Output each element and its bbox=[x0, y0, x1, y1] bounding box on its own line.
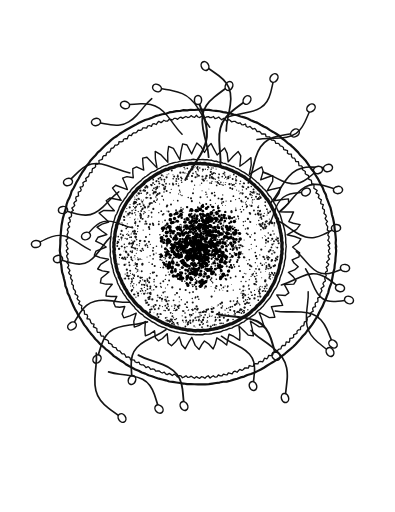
cytoplasm-dot bbox=[214, 195, 216, 197]
cytoplasm-dot bbox=[139, 276, 141, 278]
cytoplasm-dot bbox=[224, 313, 225, 314]
cytoplasm-dot bbox=[179, 301, 180, 302]
nucleus-dot bbox=[207, 206, 210, 209]
cytoplasm-dot bbox=[154, 285, 155, 286]
cytoplasm-dot bbox=[149, 311, 151, 313]
cytoplasm-dot bbox=[241, 211, 243, 213]
nucleus-dot bbox=[202, 220, 205, 223]
cytoplasm-dot bbox=[249, 298, 251, 300]
nucleus-dot bbox=[175, 211, 179, 215]
nucleus-dot bbox=[212, 256, 214, 258]
cytoplasm-dot bbox=[131, 226, 132, 227]
cytoplasm-dot bbox=[222, 205, 223, 206]
cytoplasm-dot bbox=[157, 316, 159, 318]
cytoplasm-dot bbox=[254, 252, 256, 254]
nucleus-dot bbox=[203, 272, 207, 276]
cytoplasm-dot bbox=[152, 182, 154, 184]
cytoplasm-dot bbox=[172, 174, 173, 175]
cytoplasm-dot bbox=[260, 271, 261, 272]
cytoplasm-dot bbox=[205, 175, 207, 177]
nucleus-dot bbox=[181, 255, 183, 257]
cytoplasm-dot bbox=[232, 184, 233, 185]
cytoplasm-dot bbox=[155, 286, 157, 288]
cytoplasm-dot bbox=[166, 176, 168, 178]
cytoplasm-dot bbox=[181, 226, 182, 227]
cytoplasm-dot bbox=[248, 297, 249, 298]
cytoplasm-dot bbox=[136, 199, 137, 200]
cytoplasm-dot bbox=[276, 256, 278, 258]
cytoplasm-dot bbox=[148, 228, 150, 230]
cytoplasm-dot bbox=[119, 254, 121, 256]
nucleus-dot bbox=[186, 206, 188, 208]
cytoplasm-dot bbox=[122, 224, 124, 226]
cytoplasm-dot bbox=[205, 311, 207, 313]
cytoplasm-dot bbox=[253, 189, 255, 191]
nucleus-dot bbox=[167, 266, 170, 269]
cytoplasm-dot bbox=[200, 185, 201, 186]
cytoplasm-dot bbox=[207, 169, 208, 170]
cytoplasm-dot bbox=[239, 304, 241, 306]
cytoplasm-dot bbox=[267, 258, 269, 260]
cytoplasm-dot bbox=[217, 239, 219, 241]
cytoplasm-dot bbox=[141, 201, 143, 203]
cytoplasm-dot bbox=[259, 295, 261, 297]
nucleus-dot bbox=[180, 209, 183, 212]
cytoplasm-dot bbox=[256, 275, 257, 276]
cytoplasm-dot bbox=[184, 172, 185, 173]
cytoplasm-dot bbox=[169, 192, 171, 194]
cytoplasm-dot bbox=[257, 289, 258, 290]
nucleus-dot bbox=[198, 223, 200, 225]
cytoplasm-dot bbox=[224, 178, 225, 179]
cytoplasm-dot bbox=[191, 166, 192, 167]
cytoplasm-dot bbox=[221, 176, 223, 178]
cytoplasm-dot bbox=[192, 291, 194, 293]
cytoplasm-dot bbox=[194, 184, 195, 185]
nucleus-dot bbox=[217, 230, 221, 234]
cytoplasm-dot bbox=[258, 268, 260, 270]
cytoplasm-dot bbox=[269, 275, 271, 277]
cytoplasm-dot bbox=[169, 274, 171, 276]
cytoplasm-dot bbox=[265, 268, 267, 270]
cytoplasm-dot bbox=[178, 178, 180, 180]
cytoplasm-dot bbox=[145, 290, 147, 292]
cytoplasm-dot bbox=[146, 193, 147, 194]
nucleus-dot bbox=[173, 217, 176, 220]
cytoplasm-dot bbox=[221, 184, 222, 185]
cytoplasm-dot bbox=[255, 273, 257, 275]
nucleus-dot bbox=[172, 238, 175, 241]
cytoplasm-dot bbox=[245, 228, 246, 229]
cytoplasm-dot bbox=[131, 289, 133, 291]
cytoplasm-dot bbox=[255, 196, 257, 198]
cytoplasm-dot bbox=[135, 223, 136, 224]
cytoplasm-dot bbox=[260, 216, 262, 218]
cytoplasm-dot bbox=[147, 292, 148, 293]
cytoplasm-dot bbox=[265, 221, 267, 223]
cytoplasm-dot bbox=[183, 167, 185, 169]
nucleus-dot bbox=[193, 268, 195, 270]
cytoplasm-dot bbox=[229, 257, 231, 259]
cytoplasm-dot bbox=[212, 311, 214, 313]
cytoplasm-dot bbox=[202, 323, 204, 325]
cytoplasm-dot bbox=[273, 222, 275, 224]
cytoplasm-dot bbox=[196, 176, 197, 177]
cytoplasm-dot bbox=[136, 239, 138, 241]
cytoplasm-dot bbox=[243, 221, 245, 223]
cytoplasm-dot bbox=[144, 190, 146, 192]
cytoplasm-dot bbox=[137, 228, 138, 229]
cytoplasm-dot bbox=[172, 178, 174, 180]
cytoplasm-dot bbox=[149, 210, 150, 211]
cytoplasm-dot bbox=[164, 291, 165, 292]
nucleus-dot bbox=[220, 245, 224, 249]
cytoplasm-dot bbox=[123, 251, 124, 252]
nucleus-dot bbox=[199, 213, 201, 215]
cytoplasm-dot bbox=[267, 223, 268, 224]
cytoplasm-dot bbox=[238, 265, 240, 267]
cytoplasm-dot bbox=[172, 183, 174, 185]
cytoplasm-dot bbox=[137, 295, 139, 297]
cytoplasm-dot bbox=[239, 183, 241, 185]
cytoplasm-dot bbox=[222, 323, 224, 325]
cytoplasm-dot bbox=[235, 276, 237, 278]
cytoplasm-dot bbox=[247, 218, 249, 220]
cytoplasm-dot bbox=[159, 203, 160, 204]
cytoplasm-dot bbox=[231, 183, 232, 184]
